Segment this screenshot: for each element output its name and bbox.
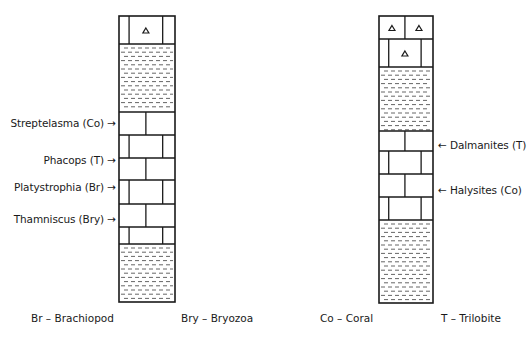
limestone-layer	[129, 16, 163, 44]
legend-bryozoa: Bry – Bryozoa	[181, 312, 253, 324]
arrow-left-icon: ←	[438, 184, 447, 196]
limestone-layer	[119, 135, 175, 158]
limestone-layer	[379, 197, 433, 220]
shale-layer	[379, 67, 433, 130]
fossil-label-streptelasma: Streptelasma (Co) →	[10, 117, 116, 129]
limestone-layer	[379, 39, 433, 67]
limestone-layer	[379, 151, 433, 174]
column-outline	[379, 16, 433, 303]
arrow-right-icon: →	[107, 154, 116, 166]
fossil-name: Streptelasma (Co)	[10, 117, 104, 129]
legend-brachiopod: Br – Brachiopod	[31, 312, 114, 324]
arrow-right-icon: →	[107, 117, 116, 129]
shale-layer	[119, 244, 175, 298]
limestone-layer	[119, 158, 175, 180]
fossil-name: Thamniscus (Bry)	[14, 213, 104, 225]
limestone-layer	[389, 16, 422, 39]
fossil-label-thamniscus: Thamniscus (Bry) →	[14, 213, 116, 225]
fossil-name: Platystrophia (Br)	[14, 181, 104, 193]
fossil-label-dalmanites: ← Dalmanites (T)	[438, 139, 526, 151]
stratigraphic-diagram	[0, 0, 531, 342]
limestone-layer	[379, 131, 433, 151]
fossil-name: Halysites (Co)	[450, 184, 522, 196]
fossil-triangle-icon	[416, 26, 422, 31]
limestone-layer	[379, 174, 433, 197]
legend-coral: Co – Coral	[320, 312, 373, 324]
arrow-right-icon: →	[107, 181, 116, 193]
fossil-triangle-icon	[143, 28, 149, 33]
legend-trilobite: T – Trilobite	[441, 312, 501, 324]
limestone-layer	[119, 180, 175, 204]
fossil-triangle-icon	[402, 51, 408, 56]
limestone-layer	[119, 227, 175, 244]
fossil-label-halysites: ← Halysites (Co)	[438, 184, 522, 196]
fossil-name: Dalmanites (T)	[450, 139, 526, 151]
column-outline	[119, 16, 175, 302]
limestone-layer	[119, 204, 175, 227]
column-left	[119, 16, 175, 302]
shale-layer	[379, 220, 433, 300]
column-right	[379, 16, 433, 303]
fossil-triangle-icon	[389, 26, 395, 31]
fossil-label-platystrophia: Platystrophia (Br) →	[14, 181, 116, 193]
shale-layer	[119, 44, 175, 107]
fossil-label-phacops: Phacops (T) →	[43, 154, 116, 166]
arrow-left-icon: ←	[438, 139, 447, 151]
fossil-name: Phacops (T)	[43, 154, 104, 166]
limestone-layer	[119, 112, 175, 135]
arrow-right-icon: →	[107, 213, 116, 225]
